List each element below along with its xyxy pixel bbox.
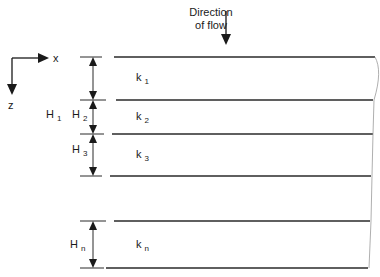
h-symbol: H — [46, 108, 54, 120]
z-axis-label: z — [8, 99, 14, 111]
h-subscript: 2 — [83, 114, 87, 123]
layer-3-thickness-label: H3 — [72, 143, 87, 157]
layer-n-thickness-label: Hn — [70, 238, 85, 252]
k-symbol: k — [136, 238, 142, 250]
k-subscript: 3 — [145, 154, 149, 163]
k-subscript: n — [145, 244, 149, 253]
k-subscript: 1 — [145, 77, 149, 86]
h-subscript: 1 — [57, 114, 61, 123]
layer-2-permeability-label: k2 — [136, 110, 149, 124]
k-symbol: k — [136, 148, 142, 160]
flow-label-line2: of flow — [176, 19, 246, 32]
flow-direction-label: Direction of flow — [176, 6, 246, 32]
h-symbol: H — [70, 238, 78, 250]
layer-1-permeability-label: k1 — [136, 71, 149, 85]
right-edge — [369, 57, 379, 268]
k-symbol: k — [136, 71, 142, 83]
dimension-arrows — [89, 57, 97, 268]
layer-2-thickness-label: H2 — [72, 108, 87, 122]
layer-3-permeability-label: k3 — [136, 148, 149, 162]
total-thickness-label: H1 — [46, 108, 61, 122]
flow-label-line1: Direction — [176, 6, 246, 19]
layer-n-permeability-label: kn — [136, 238, 149, 252]
h-symbol: H — [72, 143, 80, 155]
h-symbol: H — [72, 108, 80, 120]
coordinate-axes — [7, 53, 49, 95]
x-axis-label: x — [53, 52, 59, 64]
h-subscript: 3 — [83, 149, 87, 158]
k-subscript: 2 — [145, 116, 149, 125]
k-symbol: k — [136, 110, 142, 122]
h-subscript: n — [81, 244, 85, 253]
layered-flow-diagram — [0, 0, 380, 277]
